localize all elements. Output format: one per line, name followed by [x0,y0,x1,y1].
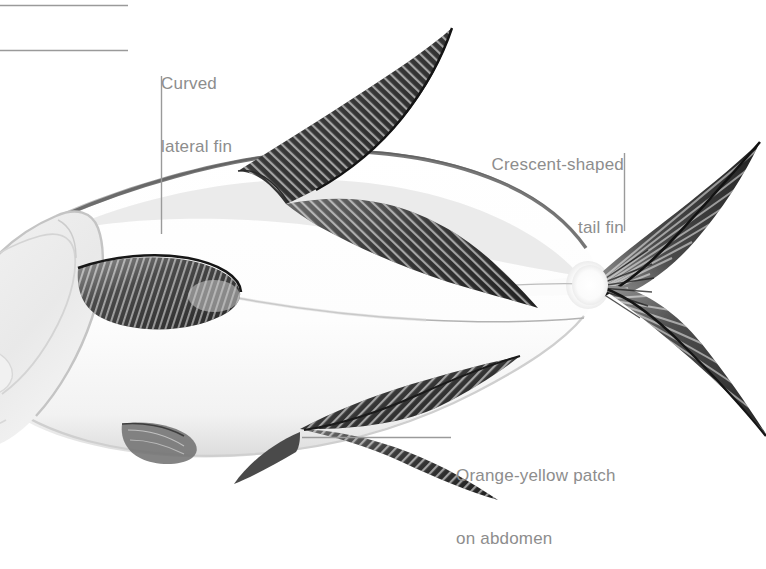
callout-crescent-shaped-tail-fin-line2: tail fin [481,217,624,238]
pectoral-highlight [188,280,240,312]
callout-orange-yellow-patch-line1: Orange-yellow patch [456,465,616,486]
callout-curved-lateral-fin: Curved lateral fin [161,31,232,199]
illustration-canvas: Curved lateral fin Crescent-shaped tail … [0,0,766,569]
callout-crescent-shaped-tail-fin-line1: Crescent-shaped [481,154,624,175]
callout-orange-yellow-patch-on-abdomen: Orange-yellow patch on abdomen [456,423,616,569]
callout-curved-lateral-fin-line2: lateral fin [161,136,232,157]
fish-illustration [0,0,766,569]
callout-crescent-shaped-tail-fin: Crescent-shaped tail fin [481,112,624,280]
callout-orange-yellow-patch-line2: on abdomen [456,528,616,549]
callout-curved-lateral-fin-line1: Curved [161,73,232,94]
